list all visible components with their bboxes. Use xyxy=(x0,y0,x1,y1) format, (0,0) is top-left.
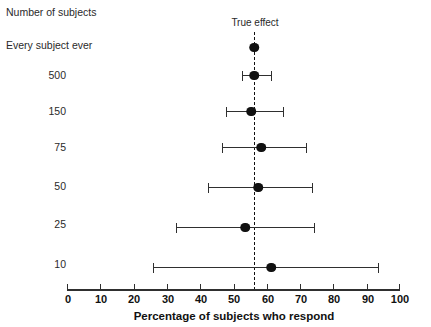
x-tick-label-20: 20 xyxy=(128,293,140,305)
ci-row-75 xyxy=(0,141,431,155)
x-tick-label-30: 30 xyxy=(162,293,174,305)
ci-row-25 xyxy=(0,221,431,235)
ci-cap-high xyxy=(306,143,307,153)
ci-row-10 xyxy=(0,261,431,275)
x-tick-label-100: 100 xyxy=(391,293,409,305)
x-tick-0 xyxy=(67,284,68,290)
ci-cap-low xyxy=(153,263,154,273)
ci-cap-high xyxy=(283,107,284,117)
x-tick-50 xyxy=(234,284,235,290)
x-tick-90 xyxy=(367,284,368,290)
ci-row-500 xyxy=(0,69,431,83)
ci-cap-low xyxy=(226,107,227,117)
ci-cap-low xyxy=(208,183,209,193)
ci-cap-high xyxy=(312,183,313,193)
estimate-marker xyxy=(246,107,256,117)
x-tick-20 xyxy=(134,284,135,290)
ci-cap-low xyxy=(242,71,243,81)
estimate-marker xyxy=(253,183,263,193)
y-axis-title: Number of subjects xyxy=(6,6,96,18)
forest-plot-figure: Number of subjects True effect Every sub… xyxy=(0,0,431,327)
ci-row-150 xyxy=(0,105,431,119)
ci-cap-low xyxy=(222,143,223,153)
ci-cap-low xyxy=(176,223,177,233)
estimate-marker xyxy=(240,223,250,233)
estimate-marker xyxy=(249,71,259,81)
x-tick-label-10: 10 xyxy=(95,293,107,305)
x-tick-label-40: 40 xyxy=(195,293,207,305)
ci-cap-high xyxy=(314,223,315,233)
x-tick-label-90: 90 xyxy=(362,293,374,305)
ci-cap-high xyxy=(378,263,379,273)
x-tick-80 xyxy=(333,284,334,290)
x-tick-30 xyxy=(167,284,168,290)
estimate-marker xyxy=(266,263,276,273)
ci-cap-high xyxy=(271,71,272,81)
x-tick-10 xyxy=(100,284,101,290)
x-tick-100 xyxy=(399,284,400,290)
ci-row-every-subject-ever xyxy=(0,41,431,55)
x-tick-label-80: 80 xyxy=(328,293,340,305)
x-tick-label-70: 70 xyxy=(295,293,307,305)
x-tick-40 xyxy=(200,284,201,290)
x-tick-60 xyxy=(267,284,268,290)
ci-row-50 xyxy=(0,181,431,195)
estimate-marker xyxy=(256,143,266,153)
x-tick-label-50: 50 xyxy=(228,293,240,305)
estimate-marker xyxy=(249,43,259,53)
x-tick-label-60: 60 xyxy=(262,293,274,305)
x-tick-70 xyxy=(300,284,301,290)
x-tick-label-0: 0 xyxy=(65,293,71,305)
x-axis-title: Percentage of subjects who respond xyxy=(134,310,335,322)
true-effect-label: True effect xyxy=(231,17,278,28)
